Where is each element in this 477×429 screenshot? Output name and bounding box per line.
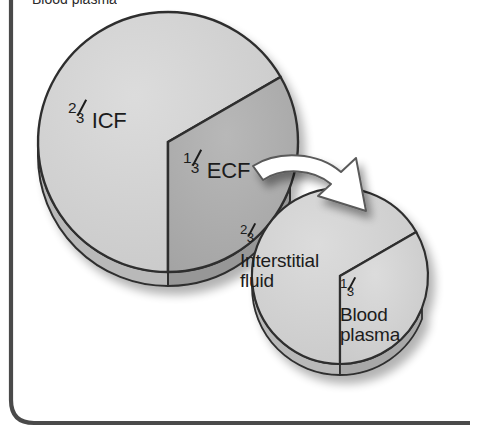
fraction-two-thirds-icf: 23 [68, 106, 90, 128]
label-interstitial-fluid: 23 Interstitial fluid [240, 228, 319, 290]
label-interstitial-line1: Interstitial [240, 251, 319, 271]
label-ecf: 13ECF [183, 156, 250, 183]
label-plasma-fraction-line: 13 [340, 282, 400, 305]
fraction-one-third-plasma: 13 [340, 282, 359, 301]
body-fluid-compartments-figure: Blood plasma [0, 0, 477, 429]
label-icf-text: ICF [92, 108, 127, 133]
label-ecf-text: ECF [207, 158, 250, 183]
label-interstitial-line2: fluid [240, 271, 319, 291]
label-blood-plasma: 13 Blood plasma [340, 282, 400, 344]
pie-diagram-canvas [0, 0, 477, 429]
fraction-two-thirds-interstitial: 23 [240, 228, 259, 247]
label-interstitial-fraction-line: 23 [240, 228, 319, 251]
fraction-one-third-ecf: 13 [183, 156, 205, 178]
label-icf: 23ICF [68, 106, 127, 133]
label-plasma-line2: plasma [340, 325, 400, 345]
label-plasma-line1: Blood [340, 305, 400, 325]
